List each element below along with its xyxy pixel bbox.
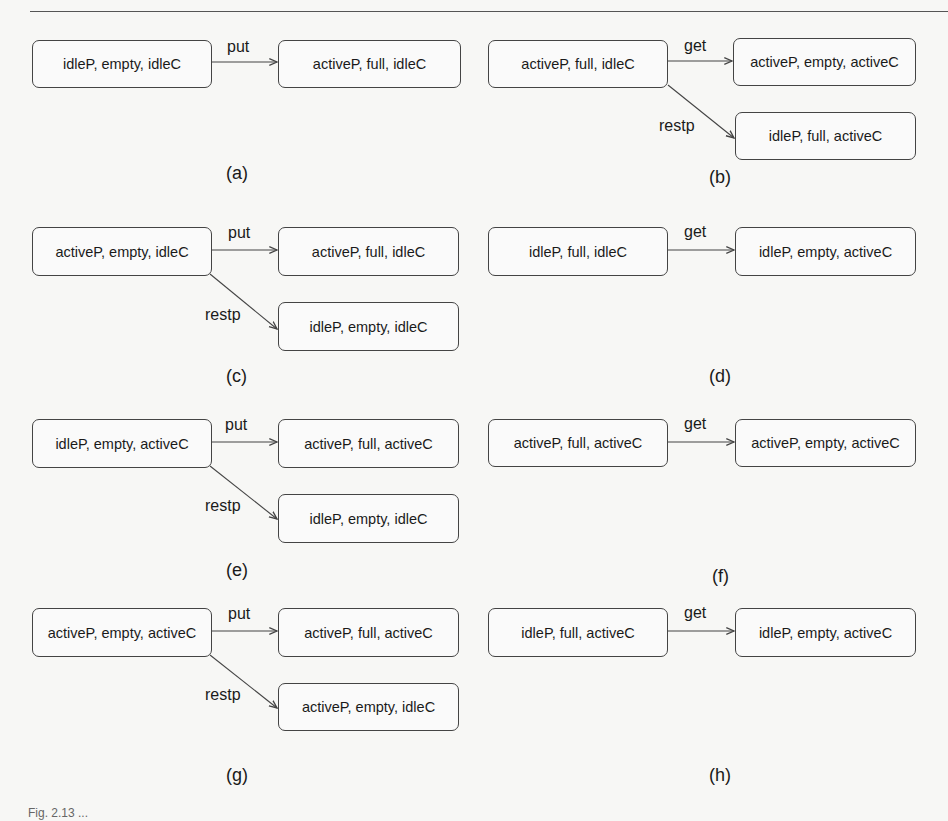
panel-caption: (f)	[712, 566, 729, 587]
figure-footer-caption: Fig. 2.13 ...	[28, 806, 88, 820]
transition-label-restp: restp	[205, 306, 241, 324]
transition-label-put: put	[228, 224, 250, 242]
state-box-target: activeP, empty, activeC	[733, 38, 916, 86]
state-box-source: activeP, empty, idleC	[32, 227, 212, 276]
transition-label-put: put	[228, 605, 250, 623]
panel-caption: (h)	[709, 765, 731, 786]
state-box-target: activeP, full, idleC	[278, 227, 459, 276]
panel-caption: (d)	[709, 366, 731, 387]
state-box-source: activeP, full, activeC	[488, 419, 668, 467]
transition-label-get: get	[684, 604, 706, 622]
transition-label-get: get	[684, 37, 706, 55]
state-box-target: activeP, full, idleC	[278, 40, 461, 88]
panel-caption: (b)	[709, 167, 731, 188]
panel-caption: (a)	[226, 163, 248, 184]
state-box-source: idleP, empty, activeC	[32, 419, 212, 468]
state-box-source: idleP, full, activeC	[488, 608, 668, 657]
transition-label-put: put	[227, 38, 249, 56]
state-box-target: idleP, empty, activeC	[735, 608, 916, 657]
state-box-source: activeP, full, idleC	[488, 40, 668, 88]
state-box-source: activeP, empty, activeC	[32, 608, 212, 657]
state-box-target: idleP, empty, activeC	[735, 227, 916, 276]
transition-label-restp: restp	[205, 497, 241, 515]
state-box-target: activeP, empty, idleC	[278, 683, 459, 731]
state-box-source: idleP, empty, idleC	[32, 40, 212, 88]
transition-label-restp: restp	[205, 686, 241, 704]
transition-label-get: get	[684, 415, 706, 433]
transition-label-get: get	[684, 223, 706, 241]
transition-label-put: put	[225, 416, 247, 434]
panel-caption: (e)	[226, 560, 248, 581]
panel-caption: (g)	[226, 765, 248, 786]
state-box-target: idleP, empty, idleC	[278, 494, 459, 543]
state-box-target: activeP, full, activeC	[278, 608, 459, 657]
transition-label-restp: restp	[659, 117, 695, 135]
state-box-source: idleP, full, idleC	[488, 227, 668, 276]
state-box-target: idleP, empty, idleC	[278, 302, 459, 351]
state-box-target: activeP, empty, activeC	[735, 419, 916, 467]
state-box-target: idleP, full, activeC	[735, 112, 916, 160]
state-box-target: activeP, full, activeC	[278, 419, 459, 468]
panel-caption: (c)	[226, 366, 247, 387]
